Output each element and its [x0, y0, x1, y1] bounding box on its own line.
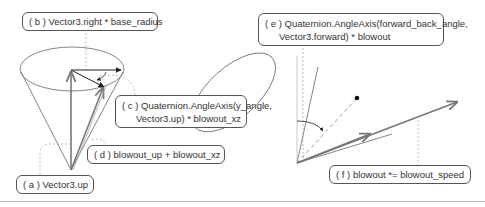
- label-c-rotation-y: ( c ) Quaternion.AngleAxis(y_angle, Vect…: [115, 95, 247, 128]
- cone-axis: [297, 98, 357, 163]
- right-cone: [178, 39, 289, 146]
- label-b-text: ( b ) Vector3.right * base_radius: [29, 16, 163, 27]
- label-d-text: ( d ) blowout_up + blowout_xz: [94, 149, 220, 160]
- vector-rotated-xz: [71, 70, 104, 87]
- label-e-text-line2: Vector3.forward) * blowout: [265, 30, 437, 43]
- label-c-text-line1: ( c ) Quaternion.AngleAxis(y_angle,: [122, 100, 272, 111]
- bottom-divider: [0, 201, 485, 202]
- leader-c: [100, 75, 135, 95]
- label-d-combined: ( d ) blowout_up + blowout_xz: [87, 145, 225, 164]
- label-f-text: ( f ) blowout *= blowout_speed: [336, 169, 464, 180]
- label-a-vector-up: ( a ) Vector3.up: [16, 175, 94, 194]
- label-a-text: ( a ) Vector3.up: [23, 179, 88, 190]
- label-e-text-line1: ( e ) Quaternion.AngleAxis(forward_back_…: [265, 18, 468, 29]
- label-b-vector-right: ( b ) Vector3.right * base_radius: [22, 12, 158, 31]
- label-c-text-line2: Vector3.up) * blowout_xz: [122, 112, 240, 125]
- cone-center-dot: [355, 96, 360, 101]
- rotation-arc-forward: [297, 121, 323, 131]
- vector-blowout-scaled: [297, 102, 457, 163]
- label-f-blowout-speed: ( f ) blowout *= blowout_speed: [329, 165, 471, 184]
- label-e-rotation-forward: ( e ) Quaternion.AngleAxis(forward_back_…: [258, 13, 444, 46]
